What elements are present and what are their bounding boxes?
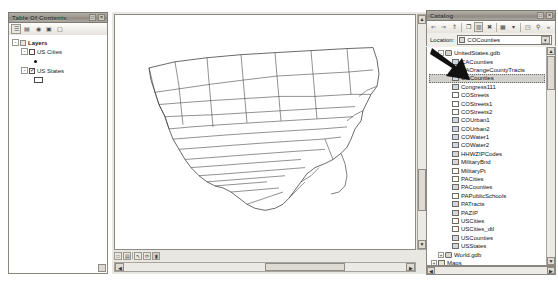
catalog-vertical-scroll-thumb[interactable] <box>547 56 555 90</box>
catalog-tree-item[interactable]: +World.gdb <box>429 250 545 258</box>
forward-button[interactable]: ⇒ <box>439 22 448 32</box>
catalog-tree-item[interactable]: COStreets <box>429 91 545 99</box>
toc-title: Table Of Contents <box>12 15 89 21</box>
catalog-tree-item[interactable]: COWater1 <box>429 133 545 141</box>
catalog-tree-item[interactable]: COUrban1 <box>429 116 545 124</box>
us-states-map-graphic <box>115 15 415 249</box>
contents-view-button[interactable]: ▦ <box>499 22 508 32</box>
list-by-drawing-order-button[interactable]: ☰ <box>11 24 21 34</box>
catalog-item-label: Congress111 <box>461 84 496 90</box>
catalog-vertical-scrollbar[interactable]: ▲ ▼ <box>546 47 555 265</box>
catalog-tree-item[interactable]: MilitaryBnd <box>429 158 545 166</box>
catalog-scroll-up-arrow-icon[interactable]: ▲ <box>547 47 555 55</box>
catalog-tree-item[interactable]: USCities <box>429 217 545 225</box>
zoom-page-button[interactable]: ↖ <box>134 252 142 260</box>
toolbar-overflow-button[interactable]: » <box>544 22 553 32</box>
connect-folder-button[interactable]: ◳ <box>523 22 532 32</box>
toc-resize-grip[interactable] <box>98 264 106 272</box>
list-by-visibility-button[interactable]: ◉ <box>33 24 43 34</box>
catalog-tree-item[interactable]: USCities_dtl <box>429 225 545 233</box>
pause-drawing-button[interactable]: ▮ <box>152 252 160 260</box>
list-by-selection-button[interactable]: ▣ <box>44 24 54 34</box>
geodatabase-icon <box>445 252 452 258</box>
catalog-tree-item[interactable]: COWater2 <box>429 141 545 149</box>
layer-visibility-checkbox[interactable] <box>29 49 35 55</box>
catalog-item-label: World.gdb <box>454 252 481 258</box>
collapse-icon[interactable]: - <box>438 50 444 56</box>
location-combobox[interactable]: COCounties ▾ <box>457 35 552 45</box>
data-view-button[interactable]: □ <box>114 252 122 260</box>
catalog-item-label: PAPublicSchools <box>461 193 506 199</box>
catalog-tree-item[interactable]: HHWZIPCodes <box>429 150 545 158</box>
catalog-scroll-right-arrow-icon[interactable]: ▶ <box>547 267 555 274</box>
catalog-tree-item[interactable]: USStates <box>429 242 545 250</box>
catalog-tree-item[interactable]: PACounties <box>429 183 545 191</box>
tree-spacer <box>445 126 451 132</box>
catalog-tree-item[interactable]: COStreets1 <box>429 99 545 107</box>
close-button[interactable]: × <box>546 12 553 19</box>
layer-visibility-checkbox[interactable]: ✓ <box>29 68 35 74</box>
scroll-right-arrow-icon[interactable]: ▶ <box>406 263 415 271</box>
refresh-view-button[interactable]: ⟳ <box>143 252 151 260</box>
catalog-tree-container[interactable]: -UnitedStates.gdbCACountiesCAOrangeCount… <box>426 47 556 266</box>
expand-icon[interactable]: + <box>438 252 444 258</box>
scroll-left-arrow-icon[interactable]: ◀ <box>115 263 124 271</box>
toc-layer-item[interactable]: -Layers <box>12 38 105 47</box>
layout-view-button[interactable]: ▤ <box>123 252 131 260</box>
catalog-tree-item[interactable]: PACities <box>429 175 545 183</box>
catalog-scroll-down-arrow-icon[interactable]: ▼ <box>547 257 555 265</box>
collapse-icon[interactable]: - <box>21 67 28 74</box>
catalog-tree-item[interactable]: PAPublicSchools <box>429 192 545 200</box>
scroll-down-arrow-icon[interactable]: ▼ <box>418 240 426 249</box>
catalog-horizontal-scrollbar[interactable]: ◀ ▶ <box>426 266 556 275</box>
catalog-tree-item[interactable]: COStreets2 <box>429 108 545 116</box>
catalog-tree-item[interactable]: PAZIP <box>429 208 545 216</box>
collapse-icon[interactable]: - <box>12 39 19 46</box>
polygon-feature-class-icon <box>452 184 459 190</box>
map-data-frame[interactable] <box>114 14 416 250</box>
toc-auto-hide-button[interactable]: □ <box>89 14 96 21</box>
layer-symbol-row[interactable] <box>12 75 105 85</box>
polygon-symbol-icon <box>34 77 43 83</box>
toc-tree-container[interactable]: -Layers-US Cities-✓US States <box>8 35 108 274</box>
back-button[interactable]: ⇐ <box>429 22 438 32</box>
delete-button[interactable]: ✖ <box>484 22 493 32</box>
catalog-tree-item[interactable]: COCounties <box>429 74 545 82</box>
options-button[interactable]: ▢ <box>55 24 65 34</box>
collapse-icon[interactable]: - <box>21 48 28 55</box>
scroll-up-arrow-icon[interactable]: ▲ <box>418 15 426 24</box>
list-by-source-button[interactable]: ▤ <box>22 24 32 34</box>
paste-button[interactable]: ▥ <box>474 22 483 32</box>
catalog-tree-item[interactable]: CAOrangeCountyTracts <box>429 66 545 74</box>
catalog-titlebar: Catalog □× <box>426 10 556 21</box>
catalog-tree-item[interactable]: Congress111 <box>429 83 545 91</box>
chevron-down-icon[interactable]: ▾ <box>541 36 550 44</box>
point-feature-class-icon <box>452 176 459 182</box>
catalog-item-label: CAOrangeCountyTracts <box>461 67 525 73</box>
map-horizontal-scrollbar[interactable]: ◀ ▶ <box>114 262 416 272</box>
layer-symbol-row[interactable] <box>12 56 105 66</box>
auto-hide-button[interactable]: □ <box>537 12 544 19</box>
vertical-scroll-thumb[interactable] <box>418 169 426 211</box>
catalog-tree-item[interactable]: -UnitedStates.gdb <box>429 49 545 57</box>
catalog-tree-item[interactable]: PATracts <box>429 200 545 208</box>
catalog-tree-item[interactable]: MilitaryPt <box>429 166 545 174</box>
toc-layer-item[interactable]: -✓US States <box>12 66 105 75</box>
toc-layer-item[interactable]: -US Cities <box>12 47 105 56</box>
toc-close-button[interactable]: × <box>98 14 105 21</box>
catalog-scroll-left-arrow-icon[interactable]: ◀ <box>427 267 435 274</box>
catalog-tree-item[interactable]: USCounties <box>429 234 545 242</box>
catalog-item-label: COCounties <box>461 75 494 81</box>
catalog-tree-item[interactable]: COUrban2 <box>429 125 545 133</box>
catalog-item-label: UnitedStates.gdb <box>454 50 500 56</box>
up-one-level-button[interactable]: ⇑ <box>450 22 459 32</box>
catalog-item-label: COWater2 <box>461 142 489 148</box>
catalog-window-buttons: □× <box>537 12 553 19</box>
catalog-tree-item[interactable]: CACounties <box>429 57 545 65</box>
search-button[interactable]: ⚲ <box>533 22 542 32</box>
horizontal-scroll-thumb[interactable] <box>265 263 345 271</box>
view-dropdown-button[interactable]: ▾ <box>509 22 518 32</box>
catalog-tree-item[interactable]: +Maps <box>429 259 545 266</box>
copy-button[interactable]: ❐ <box>464 22 473 32</box>
catalog-item-label: HHWZIPCodes <box>461 151 502 157</box>
